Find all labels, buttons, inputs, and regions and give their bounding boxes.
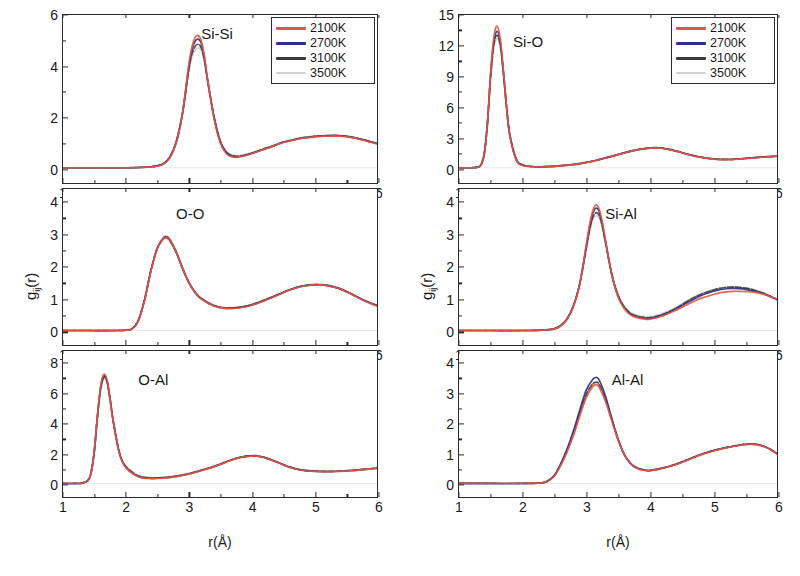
- curves-o-o: [63, 189, 377, 345]
- x-tick-mark-minor: [347, 180, 348, 183]
- y-axis-label-left: gij(r): [22, 273, 42, 300]
- y-tick-mark: [63, 201, 68, 202]
- y-tick-mark: [459, 76, 464, 77]
- x-tick-mark-top: [126, 15, 127, 18]
- y-tick-mark-minor: [459, 250, 462, 251]
- legend-label-2100k: 2100K: [310, 22, 346, 35]
- x-tick-mark-top: [458, 15, 459, 18]
- y-tick-mark-minor: [459, 153, 462, 154]
- x-tick-mark-minor: [746, 494, 747, 497]
- x-tick-mark-top: [189, 189, 190, 192]
- x-tick-mark-minor: [746, 180, 747, 183]
- y-axis-label-text-right: gij(r): [418, 273, 435, 300]
- y-tick-mark-minor: [459, 283, 462, 284]
- panel-si-si: Si-Si 2100K2700K3100K3500K 0246123456: [62, 14, 378, 184]
- x-tick-label: 1: [455, 497, 463, 514]
- x-tick-mark-top: [586, 189, 587, 192]
- y-tick-mark: [63, 424, 68, 425]
- y-tick-mark-minor: [459, 408, 462, 409]
- x-tick-mark-top: [714, 351, 715, 354]
- y-tick-mark: [63, 454, 68, 455]
- y-tick-label: 15: [438, 8, 459, 22]
- y-tick-mark-minor: [63, 408, 66, 409]
- y-tick-label: 1: [446, 448, 459, 462]
- y-tick-mark: [459, 363, 464, 364]
- x-tick-mark-minor: [490, 342, 491, 345]
- legend-row: 3500K: [676, 66, 770, 80]
- y-tick-mark-minor: [459, 123, 462, 124]
- x-tick-mark-top: [714, 189, 715, 192]
- x-tick-mark-minor: [347, 494, 348, 497]
- curve-3500k: [459, 386, 777, 484]
- x-tick-mark-top: [252, 351, 253, 354]
- legend-row: 3500K: [276, 66, 370, 80]
- y-tick-label: 1: [446, 293, 459, 307]
- x-tick-mark-minor: [157, 494, 158, 497]
- y-tick-mark: [459, 45, 464, 46]
- x-tick-label: 1: [59, 497, 67, 514]
- y-tick-label: 2: [50, 448, 63, 462]
- x-tick-mark-top: [586, 15, 587, 18]
- curve-3100k: [63, 237, 377, 330]
- legend-label-2700k: 2700K: [310, 37, 346, 50]
- y-tick-mark: [63, 117, 68, 118]
- legend-label-2100k: 2100K: [710, 22, 746, 35]
- legend-swatch-3500k: [276, 72, 306, 74]
- x-tick-mark-top: [650, 15, 651, 18]
- x-tick-label: 3: [185, 497, 193, 514]
- x-tick-mark-minor: [94, 342, 95, 345]
- legend-swatch-2100k: [276, 27, 306, 30]
- y-tick-mark: [459, 332, 464, 333]
- y-tick-mark-minor: [63, 378, 66, 379]
- y-tick-mark: [459, 169, 464, 170]
- x-tick-label: 5: [312, 497, 320, 514]
- legend-swatch-3500k: [676, 72, 706, 74]
- x-tick-mark-top: [252, 189, 253, 192]
- legend-label-3500k: 3500K: [310, 67, 346, 80]
- y-tick-mark: [459, 393, 464, 394]
- y-tick-mark: [459, 454, 464, 455]
- y-tick-label: 1: [50, 293, 63, 307]
- x-tick-mark-top: [458, 351, 459, 354]
- legend-label-3100k: 3100K: [310, 52, 346, 65]
- y-tick-label: 4: [50, 60, 63, 74]
- y-tick-mark: [459, 107, 464, 108]
- plot-area-si-al: [459, 189, 777, 345]
- x-tick-mark-top: [586, 351, 587, 354]
- y-tick-label: 3: [50, 228, 63, 242]
- x-tick-mark-minor: [220, 180, 221, 183]
- panel-o-o: O-O 01234123456: [62, 188, 378, 346]
- y-tick-mark-minor: [459, 218, 462, 219]
- x-tick-label: 3: [583, 497, 591, 514]
- y-tick-label: 3: [446, 228, 459, 242]
- x-tick-mark-top: [315, 351, 316, 354]
- panel-al-al: Al-Al 01234123456: [458, 350, 778, 498]
- curve-2100k: [63, 374, 377, 483]
- plot-area-o-al: [63, 351, 377, 497]
- x-tick-mark-minor: [490, 180, 491, 183]
- y-tick-mark-minor: [63, 250, 66, 251]
- y-tick-mark-minor: [459, 30, 462, 31]
- y-tick-mark-minor: [63, 92, 66, 93]
- legend-si-si: 2100K2700K3100K3500K: [271, 17, 375, 84]
- legend-swatch-2100k: [676, 27, 706, 30]
- x-tick-mark-minor: [220, 494, 221, 497]
- x-tick-mark-minor: [682, 494, 683, 497]
- curves-al-al: [459, 351, 777, 497]
- x-tick-label: 2: [519, 497, 527, 514]
- y-tick-label: 4: [50, 417, 63, 431]
- left-column: gij(r) Si-Si 2100K2700K3100K3500K 024612…: [0, 0, 400, 576]
- legend-swatch-2700k: [676, 42, 706, 45]
- legend-si-o: 2100K2700K3100K3500K: [671, 17, 775, 84]
- legend-row: 2100K: [676, 21, 770, 35]
- curve-2100k: [459, 385, 777, 484]
- rdf-figure: gij(r) Si-Si 2100K2700K3100K3500K 024612…: [0, 0, 800, 576]
- legend-row: 3100K: [676, 51, 770, 65]
- x-tick-mark-minor: [157, 180, 158, 183]
- curve-2100k: [459, 205, 777, 331]
- y-tick-label: 2: [446, 417, 459, 431]
- y-tick-mark-minor: [63, 469, 66, 470]
- y-tick-mark-minor: [459, 92, 462, 93]
- x-tick-mark-top: [126, 351, 127, 354]
- y-tick-label: 4: [50, 195, 63, 209]
